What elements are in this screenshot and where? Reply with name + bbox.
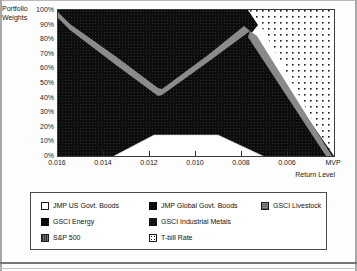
- legend-swatch-black: [149, 202, 157, 210]
- legend-row: JMP US Govt. BoodsJMP Global Govt. Boods…: [37, 198, 320, 214]
- legend-row: GSCI EnergyGSCI Industrial Metals: [37, 214, 320, 230]
- legend-item-label: JMP US Govt. Boods: [53, 202, 119, 210]
- legend-item[interactable]: T-bill Rate: [149, 230, 193, 246]
- legend-swatch-white: [41, 202, 49, 210]
- x-tick-label: 0.006: [264, 158, 310, 167]
- x-tick-label: 0.008: [218, 158, 264, 167]
- y-tick-label: 70%: [28, 50, 54, 57]
- x-tick-mark: [241, 151, 242, 156]
- scan-edge-bottom: [0, 262, 357, 264]
- x-tick-mark: [195, 151, 196, 156]
- legend-item-label: T-bill Rate: [161, 234, 193, 242]
- chart-page: Portfolio Weights 100%90%80%70%60%50%40%…: [0, 0, 357, 271]
- legend-item[interactable]: GSCI Energy: [41, 214, 94, 230]
- legend-swatch-dotted: [149, 234, 157, 242]
- y-tick-label: 60%: [28, 64, 54, 71]
- y-tick-label: 20%: [28, 123, 54, 130]
- x-tick-label: 0.016: [34, 158, 80, 167]
- legend-item[interactable]: JMP Global Govt. Boods: [149, 198, 238, 214]
- x-tick-label: MVP: [310, 158, 356, 167]
- y-tick-label: 50%: [28, 79, 54, 86]
- legend-item-label: GSCI Livestock: [273, 202, 321, 210]
- x-tick-mark: [287, 151, 288, 156]
- legend-item[interactable]: GSCI Livestock: [261, 198, 321, 214]
- legend-row: S&P 500T-bill Rate: [37, 230, 320, 246]
- x-tick-mark: [149, 151, 150, 156]
- y-tick-label: 100%: [28, 6, 54, 13]
- scan-edge-bottom-2: [0, 268, 357, 269]
- y-tick-label: 30%: [28, 108, 54, 115]
- y-tick-label: 80%: [28, 35, 54, 42]
- legend-swatch-dark: [149, 218, 157, 226]
- legend-item[interactable]: S&P 500: [41, 230, 81, 246]
- legend-item-label: JMP Global Govt. Boods: [161, 202, 238, 210]
- x-tick-label: 0.010: [172, 158, 218, 167]
- x-tick-mark: [103, 151, 104, 156]
- plot-area: [57, 9, 335, 157]
- y-axis-ticks: 100%90%80%70%60%50%40%30%20%10%0%: [22, 0, 54, 165]
- x-tick-label: 0.014: [80, 158, 126, 167]
- legend-item-label: GSCI Energy: [53, 218, 94, 226]
- y-tick-label: 10%: [28, 137, 54, 144]
- stacked-area-chart: [58, 10, 334, 156]
- chart-legend: JMP US Govt. BoodsJMP Global Govt. Boods…: [30, 192, 327, 250]
- y-tick-label: 90%: [28, 21, 54, 28]
- y-tick-label: 40%: [28, 94, 54, 101]
- legend-swatch-black: [41, 218, 49, 226]
- legend-swatch-hatch: [41, 234, 49, 242]
- legend-swatch-gray: [261, 202, 269, 210]
- legend-item[interactable]: GSCI Industrial Metals: [149, 214, 231, 230]
- legend-item-label: S&P 500: [53, 234, 81, 242]
- x-axis-caption: Return Level: [295, 170, 335, 179]
- scan-edge-left: [0, 0, 2, 271]
- legend-item-label: GSCI Industrial Metals: [161, 218, 231, 226]
- x-tick-label: 0.012: [126, 158, 172, 167]
- legend-item[interactable]: JMP US Govt. Boods: [41, 198, 119, 214]
